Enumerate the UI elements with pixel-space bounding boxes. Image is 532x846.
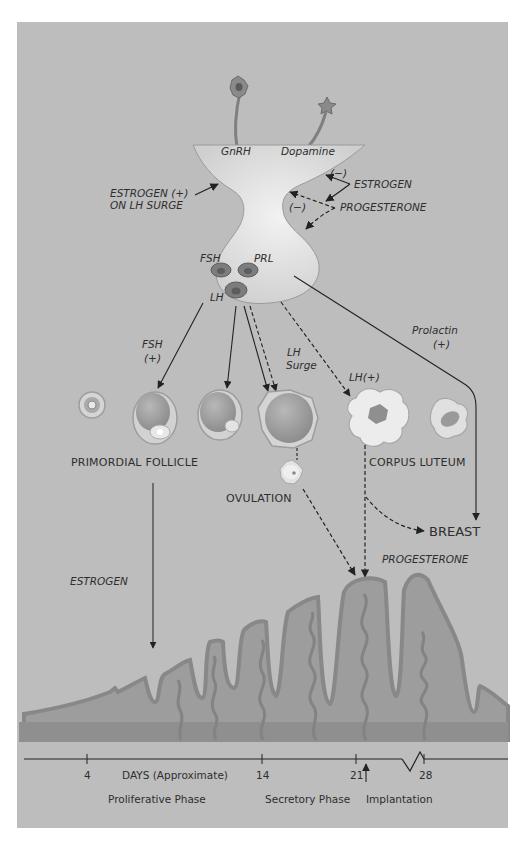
prolactin-sign: (+)	[433, 338, 450, 350]
primordial-follicle-label: PRIMORDIAL FOLLICLE	[71, 456, 198, 469]
dopamine-label: Dopamine	[281, 145, 335, 157]
menstrual-cycle-diagram: GnRH Dopamine ESTROGEN (+) ON LH SURGE (…	[0, 0, 532, 846]
primordial-follicle-icon	[79, 392, 105, 418]
lh-cell-label: LH	[210, 291, 224, 303]
prl-cells-icon	[238, 263, 258, 277]
gnrh-label: GnRH	[221, 145, 251, 157]
estrogen-negative-label: ESTROGEN	[354, 178, 412, 190]
progesterone-label: PROGESTERONE	[382, 553, 469, 565]
fsh-cells-icon	[211, 263, 231, 277]
progesterone-negative-label: PROGESTERONE	[340, 201, 427, 213]
ovulation-label: OVULATION	[226, 492, 292, 505]
tick-label-14: 14	[256, 769, 270, 781]
tick-label-28: 28	[419, 769, 432, 781]
primary-follicle-icon	[133, 392, 177, 444]
lh-surge-label-line1: LH	[287, 346, 301, 358]
secretory-phase-label: Secretory Phase	[265, 793, 350, 805]
estrogen-label: ESTROGEN	[70, 575, 128, 587]
lh-cells-icon	[225, 282, 247, 298]
fsh-pathway-sign: (+)	[144, 352, 161, 364]
secondary-follicle-icon	[198, 390, 242, 440]
prl-cell-label: PRL	[254, 252, 274, 264]
breast-label: BREAST	[429, 524, 480, 539]
tick-label-4: 4	[84, 769, 91, 781]
progesterone-negative-sign: (−)	[289, 201, 306, 213]
prolactin-label: Prolactin	[412, 324, 458, 336]
estrogen-positive-label-line1: ESTROGEN (+)	[110, 187, 188, 199]
lh-surge-label-line2: Surge	[286, 359, 317, 371]
fsh-pathway-label: FSH	[142, 338, 163, 350]
estrogen-positive-label-line2: ON LH SURGE	[110, 199, 183, 211]
corpus-albicans-icon	[430, 398, 467, 438]
mature-follicle-icon	[258, 390, 318, 448]
proliferative-phase-label: Proliferative Phase	[108, 793, 206, 805]
days-label: DAYS (Approximate)	[122, 769, 228, 781]
lh-positive-label: LH(+)	[349, 371, 380, 383]
corpus-luteum-label: CORPUS LUTEUM	[369, 456, 466, 469]
tick-label-21: 21	[350, 769, 363, 781]
fsh-cell-label: FSH	[200, 252, 221, 264]
implantation-label: Implantation	[366, 793, 433, 805]
